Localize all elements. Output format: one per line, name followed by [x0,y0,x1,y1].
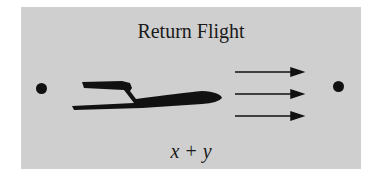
airplane-icon [72,73,232,113]
diagram-title: Return Flight [21,20,361,43]
start-point [36,83,47,94]
diagram-panel: Return Flight x + y [21,7,361,169]
arrows-icon [233,62,308,122]
expression-label: x + y [21,140,361,163]
end-point [333,81,344,92]
